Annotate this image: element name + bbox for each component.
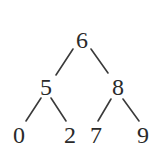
edge-5-0 [26, 98, 41, 121]
edge-6-8 [91, 49, 108, 73]
node-left-left: 0 [13, 122, 25, 148]
node-right-right: 9 [137, 122, 149, 148]
node-left-right: 2 [64, 122, 76, 148]
edge-5-2 [51, 98, 66, 121]
node-left: 5 [40, 74, 52, 100]
edge-6-5 [56, 49, 73, 75]
edge-8-9 [123, 99, 139, 121]
binary-tree-diagram: 6 5 8 0 2 7 9 [0, 0, 161, 164]
node-right-left: 7 [90, 122, 102, 148]
node-root: 6 [76, 27, 88, 53]
edge-8-7 [98, 99, 111, 121]
node-right: 8 [112, 74, 124, 100]
